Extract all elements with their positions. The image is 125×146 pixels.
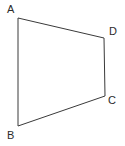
- vertex-label-c: C: [108, 95, 116, 106]
- quadrilateral-shape: [18, 18, 105, 126]
- vertex-label-d: D: [109, 26, 117, 37]
- quadrilateral-drawing: [0, 0, 125, 146]
- figure-canvas: A B C D: [0, 0, 125, 146]
- vertex-label-b: B: [7, 130, 14, 141]
- vertex-label-a: A: [7, 4, 14, 15]
